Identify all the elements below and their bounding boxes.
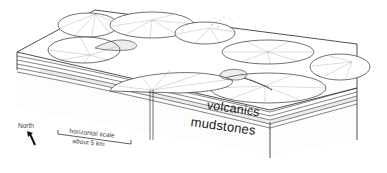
- volcanic-cone: [310, 54, 370, 80]
- label-north: North: [18, 122, 34, 129]
- volcanic-cone: [175, 22, 235, 44]
- north-arrow-icon: [27, 131, 35, 145]
- volcanic-cone: [58, 13, 118, 37]
- block-diagram: [0, 0, 387, 173]
- lava-flow: [220, 69, 247, 80]
- volcanic-cone: [222, 40, 314, 64]
